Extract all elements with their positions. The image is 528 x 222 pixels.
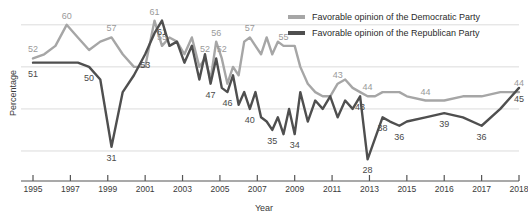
chart-container: 1995199719992001200320052007200920112013…: [0, 0, 528, 222]
x-tick-label: 2009: [285, 184, 304, 194]
point-label-democratic: 52: [28, 44, 38, 54]
y-axis-title: Percentage: [8, 58, 18, 128]
point-label-republican: 36: [477, 132, 487, 142]
point-label-democratic: 52: [217, 44, 227, 54]
x-tick-label: 2011: [323, 184, 341, 194]
point-label-democratic: 43: [333, 70, 343, 80]
point-label-democratic: 44: [363, 82, 373, 92]
point-label-republican: 40: [245, 115, 255, 125]
point-label-democratic: 56: [211, 28, 221, 38]
x-tick-label: 2003: [173, 184, 192, 194]
x-axis: [21, 175, 519, 181]
point-label-democratic: 44: [514, 78, 524, 88]
chart-legend: Favorable opinion of the Democratic Part…: [288, 10, 528, 42]
legend-item-republican[interactable]: Favorable opinion of the Republican Part…: [288, 26, 528, 40]
point-label-democratic: 61: [149, 7, 159, 17]
x-tick-label: 2013: [360, 184, 379, 194]
point-label-democratic: 57: [245, 23, 255, 33]
point-label-republican: 43: [355, 102, 365, 112]
legend-label-republican: Favorable opinion of the Republican Part…: [312, 28, 480, 38]
x-tick-label: 2017: [472, 184, 491, 194]
point-label-republican: 50: [84, 73, 94, 83]
x-tick-label: 2001: [136, 184, 155, 194]
point-label-republican: 38: [378, 123, 388, 133]
point-label-democratic: 52: [200, 44, 210, 54]
point-label-republican: 35: [267, 136, 277, 146]
point-label-democratic: 57: [106, 23, 116, 33]
point-label-republican: 47: [206, 90, 216, 100]
legend-label-democratic: Favorable opinion of the Democratic Part…: [312, 12, 480, 22]
point-label-republican: 45: [514, 94, 524, 104]
point-label-republican: 34: [290, 140, 300, 150]
point-label-republican: 46: [222, 98, 232, 108]
legend-swatch-republican: [288, 31, 305, 35]
x-tick-label: 2016: [435, 184, 454, 194]
point-label-republican: 31: [106, 153, 116, 163]
point-label-republican: 53: [140, 60, 150, 70]
point-label-republican: 28: [363, 165, 373, 175]
x-tick-label: 1995: [24, 184, 43, 194]
point-label-democratic: 55: [278, 32, 288, 42]
x-tick-label: 1997: [61, 184, 80, 194]
point-label-democratic: 60: [62, 11, 72, 21]
legend-item-democratic[interactable]: Favorable opinion of the Democratic Part…: [288, 10, 528, 24]
point-label-republican: 39: [439, 119, 449, 129]
x-tick-label: 2018: [510, 184, 528, 194]
point-label-republican: 51: [28, 69, 38, 79]
point-label-republican: 61: [157, 27, 167, 37]
x-tick-label: 2015: [397, 184, 416, 194]
x-tick-label: 1999: [98, 184, 117, 194]
point-label-republican: 36: [394, 132, 404, 142]
x-tick-label: 2005: [210, 184, 229, 194]
legend-swatch-democratic: [288, 15, 305, 19]
x-tick-label: 2007: [248, 184, 267, 194]
x-axis-title: Year: [0, 203, 528, 213]
point-label-democratic: 44: [421, 87, 431, 97]
